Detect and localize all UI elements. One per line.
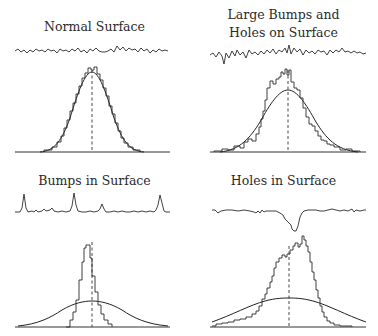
gaussian-fit-curve bbox=[220, 90, 358, 152]
gaussian-fit-curve bbox=[18, 301, 168, 326]
surface-profile-holes bbox=[212, 209, 366, 231]
surface-profile-bumps bbox=[15, 193, 170, 212]
height-histogram bbox=[214, 69, 360, 152]
surface-profile-normal bbox=[15, 46, 168, 53]
height-histogram bbox=[66, 245, 112, 327]
surface-profile-large-bumps-holes bbox=[210, 45, 366, 64]
figure-graphics bbox=[0, 0, 378, 336]
